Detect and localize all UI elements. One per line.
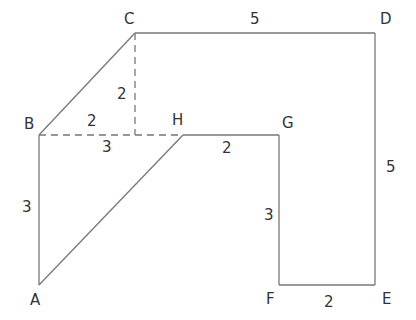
point-label-a: A — [30, 293, 40, 308]
segment-ha — [39, 135, 183, 285]
point-label-e: E — [382, 292, 391, 307]
length-label-ab: 3 — [22, 200, 32, 215]
diagram-lines — [0, 0, 416, 320]
point-label-h: H — [172, 113, 183, 128]
point-label-f: F — [266, 292, 275, 307]
length-label-bh: 3 — [102, 140, 112, 155]
geometry-diagram: C D B H G A F E 5 5 2 3 2 3 3 2 2 — [0, 0, 416, 320]
length-label-b-horizontal: 2 — [87, 114, 97, 129]
point-label-d: D — [380, 12, 392, 27]
point-label-g: G — [282, 116, 294, 131]
length-label-de: 5 — [386, 160, 396, 175]
point-label-b: B — [24, 117, 34, 132]
length-label-fg: 3 — [264, 208, 274, 223]
point-label-c: C — [124, 12, 134, 27]
length-label-gh: 2 — [222, 141, 232, 156]
length-label-ef: 2 — [324, 295, 334, 310]
length-label-c-vertical: 2 — [117, 87, 127, 102]
length-label-cd: 5 — [250, 12, 260, 27]
